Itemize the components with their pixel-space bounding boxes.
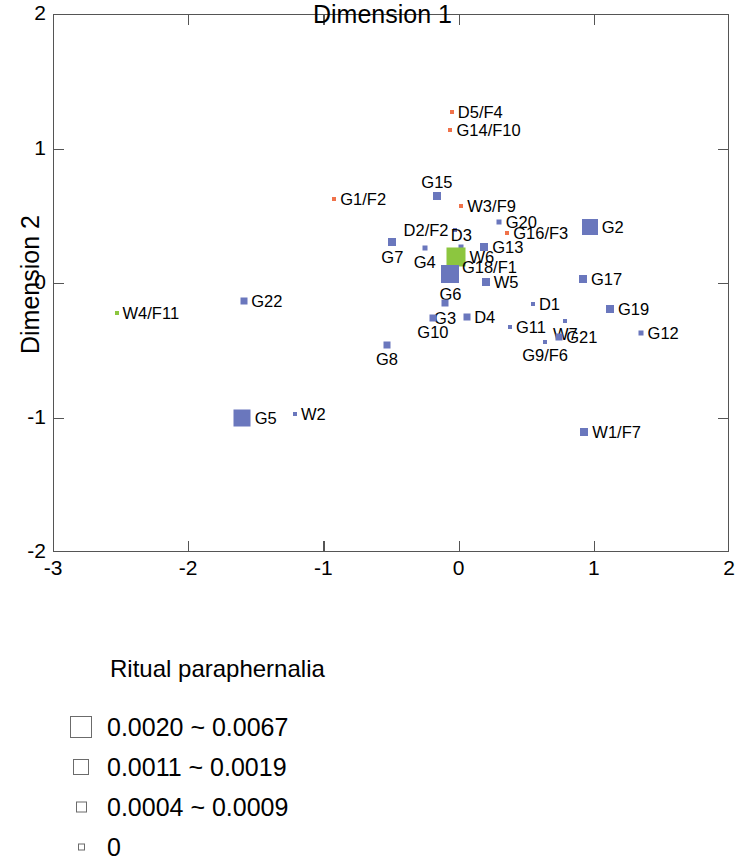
data-point-marker <box>293 412 297 416</box>
data-point-label: G1/F2 <box>340 191 386 208</box>
legend-swatch <box>70 716 92 738</box>
legend-item: 0.0004 ~ 0.0009 <box>60 787 440 827</box>
x-tick-label: 2 <box>699 556 735 580</box>
data-point-marker <box>497 219 502 224</box>
y-tick-label: -2 <box>0 539 46 563</box>
y-tick-right <box>718 418 729 419</box>
x-axis-title: Dimension 1 <box>0 0 735 29</box>
x-tick-bottom <box>188 541 189 552</box>
data-point-marker <box>441 265 459 283</box>
data-point-marker <box>639 330 644 335</box>
data-point-label: D2/F2 <box>404 222 449 239</box>
legend-label: 0.0011 ~ 0.0019 <box>107 753 287 782</box>
legend-label: 0 <box>107 833 121 862</box>
data-point-marker <box>531 302 535 306</box>
data-point-marker <box>234 409 251 426</box>
x-tick-bottom <box>594 541 595 552</box>
x-tick-label: 1 <box>564 556 624 580</box>
data-point-label: G7 <box>381 249 403 266</box>
x-tick-label: 0 <box>429 556 489 580</box>
data-point-label: G22 <box>251 293 282 310</box>
x-tick-bottom <box>459 541 460 552</box>
data-point-marker <box>579 275 587 283</box>
legend-swatch <box>76 802 87 813</box>
data-point-label: D1 <box>539 296 560 313</box>
legend-item: 0.0011 ~ 0.0019 <box>60 747 440 787</box>
legend-title: Ritual paraphernalia <box>110 655 325 683</box>
y-tick-left <box>53 283 64 284</box>
data-point-label: G12 <box>648 325 679 342</box>
data-point-marker <box>115 311 119 315</box>
x-tick-bottom <box>323 541 324 552</box>
data-point-marker <box>555 333 562 340</box>
y-axis-title: Dimension 2 <box>16 135 45 435</box>
data-point-label: G19 <box>618 301 649 318</box>
legend-swatch <box>78 844 85 851</box>
data-point-marker <box>422 246 427 251</box>
legend-item: 0.0020 ~ 0.0067 <box>60 707 440 747</box>
data-point-marker <box>433 192 441 200</box>
data-point-label: W3/F9 <box>467 198 516 215</box>
data-point-marker <box>450 110 454 114</box>
data-point-label: D5/F4 <box>458 104 503 121</box>
data-point-marker <box>606 305 614 313</box>
data-point-marker <box>582 219 598 235</box>
legend-swatch <box>73 759 89 775</box>
y-tick-left <box>53 418 64 419</box>
data-point-marker <box>563 319 567 323</box>
data-point-label: D4 <box>474 309 495 326</box>
data-point-marker <box>429 314 436 321</box>
x-tick-label: -2 <box>158 556 218 580</box>
data-point-label: G5 <box>255 410 277 427</box>
data-point-label: G9/F6 <box>522 347 568 364</box>
data-point-marker <box>332 197 336 201</box>
legend-label: 0.0020 ~ 0.0067 <box>107 713 288 742</box>
data-point-label: W4/F11 <box>123 305 180 322</box>
data-point-marker <box>508 325 512 329</box>
data-point-marker <box>448 128 452 132</box>
data-point-marker <box>240 298 247 305</box>
data-point-label: G14/F10 <box>456 122 520 139</box>
legend-item: 0 <box>60 827 440 862</box>
data-point-label: D3 <box>451 227 472 244</box>
data-point-label: W2 <box>301 406 326 423</box>
data-point-label: G21 <box>566 329 597 346</box>
data-point-label: W5 <box>494 274 519 291</box>
y-tick-right <box>718 149 729 150</box>
data-point-marker <box>580 428 588 436</box>
legend-label: 0.0004 ~ 0.0009 <box>107 793 288 822</box>
data-point-marker <box>543 340 547 344</box>
data-point-label: G2 <box>602 219 624 236</box>
data-point-label: G11 <box>516 319 546 336</box>
data-point-marker <box>459 204 463 208</box>
data-point-label: G17 <box>591 271 622 288</box>
data-point-label: G15 <box>421 174 452 191</box>
data-point-label: W1/F7 <box>592 424 641 441</box>
data-point-marker <box>442 300 449 307</box>
data-point-label: G13 <box>492 239 523 256</box>
data-point-label: G10 <box>417 324 448 341</box>
data-point-marker <box>388 238 396 246</box>
data-point-marker <box>505 231 509 235</box>
y-tick-right <box>718 283 729 284</box>
data-point-marker <box>482 278 490 286</box>
data-point-label: G4 <box>414 254 436 271</box>
y-tick-left <box>53 149 64 150</box>
data-point-marker <box>383 341 390 348</box>
plot-frame <box>53 14 729 552</box>
data-point-marker <box>463 314 470 321</box>
scatter-plot-figure: -3-2-1012-2-1012 D5/F4G14/F10G15G1/F2W3/… <box>0 0 735 862</box>
x-tick-label: -1 <box>293 556 353 580</box>
data-point-label: G8 <box>376 351 398 368</box>
